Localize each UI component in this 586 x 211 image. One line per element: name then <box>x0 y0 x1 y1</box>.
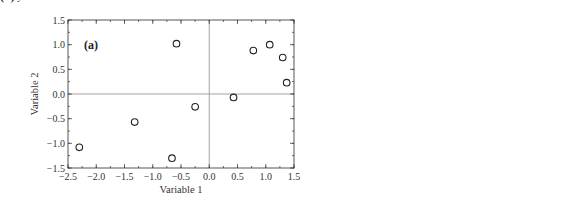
data-point <box>169 155 176 162</box>
x-tick-label: 0.0 <box>203 171 216 182</box>
x-tick-label: 1.5 <box>288 171 301 182</box>
data-point <box>192 104 199 111</box>
data-point <box>283 79 290 86</box>
x-tick-label: −2.0 <box>87 171 105 182</box>
data-point <box>76 144 83 151</box>
histogram-panel: (b) Frequency 2.78456 <box>0 0 23 3</box>
x-tick-label: −0.5 <box>172 171 190 182</box>
y-tick-label: 1.5 <box>53 15 66 26</box>
x-tick-labels: −2.5−2.0−1.5−1.0−0.50.00.51.01.5 <box>59 171 300 182</box>
x-axis-title: Variable 1 <box>160 184 203 195</box>
data-point <box>173 40 180 47</box>
data-point <box>250 47 257 54</box>
figure: −2.5−2.0−1.5−1.0−0.50.00.51.01.5 −1.5−1.… <box>0 0 586 211</box>
y-axis-title: Variable 2 <box>29 73 40 116</box>
observed-statistic-annotation: 2.78456 <box>0 0 17 2</box>
data-points <box>76 40 290 161</box>
data-point <box>266 41 273 48</box>
x-tick-label: 0.5 <box>231 171 244 182</box>
data-point <box>230 94 237 101</box>
y-tick-label: −1.5 <box>47 163 65 174</box>
x-tick-label: −1.0 <box>144 171 162 182</box>
y-tick-label: 0.0 <box>53 89 66 100</box>
scatter-panel: −2.5−2.0−1.5−1.0−0.50.00.51.01.5 −1.5−1.… <box>29 15 300 196</box>
y-tick-label: −1.0 <box>47 138 65 149</box>
data-point <box>279 54 286 61</box>
x-tick-label: −1.5 <box>115 171 133 182</box>
x-tick-label: 1.0 <box>260 171 273 182</box>
panel-label: (a) <box>84 38 98 52</box>
y-tick-label: −0.5 <box>47 113 65 124</box>
y-tick-label: 0.5 <box>53 64 66 75</box>
y-tick-label: 1.0 <box>53 39 66 50</box>
data-point <box>131 119 138 126</box>
y-tick-labels: −1.5−1.0−0.50.00.51.01.5 <box>47 15 65 174</box>
annotation-label: 2.78456 <box>0 0 17 2</box>
